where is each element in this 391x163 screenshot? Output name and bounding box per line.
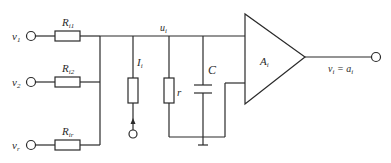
input-terminal-r [27,141,36,150]
circuit-diagram: v1 v2 vr Ri1 Ri2 Rir ui Ii r C Ai vi = a… [0,0,391,163]
arrow-icon [131,118,136,124]
resistor-ri1 [55,31,80,41]
output-terminal [372,53,381,62]
label-r: r [177,86,182,98]
input-terminal-2 [27,78,36,87]
label-c: C [208,63,217,77]
label-ri1: Ri1 [61,16,74,30]
label-ri2: Ri2 [61,62,75,76]
resistor-rir [55,140,80,150]
input-terminal-1 [27,32,36,41]
label-ui: ui [160,22,167,35]
label-ii: Ii [136,56,143,70]
label-v2: v2 [12,76,21,90]
label-v1: v1 [12,30,20,44]
label-output: vi = ai [328,63,353,76]
resistor-ri2 [55,77,80,87]
label-vr: vr [12,139,20,153]
current-source-terminal [129,130,137,138]
current-source-element [128,78,138,103]
resistor-r [164,78,174,103]
amplifier [245,14,305,104]
label-rir: Rir [61,125,74,139]
